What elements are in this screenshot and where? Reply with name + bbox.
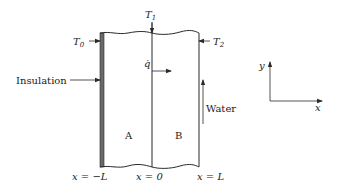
- region-a-label: A: [124, 130, 133, 141]
- top-boundary: [100, 30, 199, 34]
- heat-flux-label: q̇: [144, 58, 150, 69]
- insulation-label: Insulation: [16, 75, 67, 86]
- region-b-label: B: [175, 130, 182, 141]
- bottom-boundary: [100, 164, 199, 168]
- t2-label: T2: [213, 36, 225, 49]
- t0-label: T0: [73, 36, 85, 49]
- x-axis-label: x: [315, 102, 321, 113]
- t1-label: T1: [145, 9, 156, 22]
- water-label: Water: [206, 103, 236, 114]
- heat-transfer-diagram: T1 T0 T2 Insulation q̇ Water A B x = −L …: [0, 0, 338, 190]
- position-right-label: x = L: [197, 171, 224, 182]
- position-left-label: x = −L: [72, 171, 108, 182]
- position-center-label: x = 0: [136, 171, 163, 182]
- y-axis-label: y: [258, 60, 265, 71]
- insulation-layer: [100, 33, 104, 167]
